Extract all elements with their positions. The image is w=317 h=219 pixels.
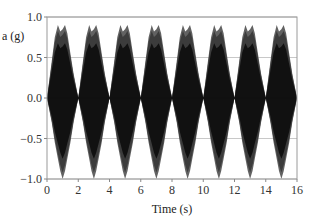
x-tick-label: 6: [138, 183, 144, 197]
x-tick-label: 0: [44, 183, 50, 197]
x-axis-label: Time (s): [152, 202, 193, 216]
y-axis-label: a (g): [2, 29, 24, 43]
signal-lobe: [110, 43, 141, 159]
y-tick-label: −1.0: [20, 172, 42, 186]
x-tick-label: 16: [291, 183, 303, 197]
y-tick-label: 0.0: [27, 91, 42, 105]
signal-lobe: [235, 43, 266, 159]
x-axis-ticks: 0246810121416: [44, 179, 303, 197]
signal-lobe: [78, 43, 109, 159]
signal-envelope: [47, 25, 297, 179]
signal-lobe: [141, 43, 172, 159]
y-tick-label: −0.5: [20, 132, 42, 146]
x-tick-label: 2: [75, 183, 81, 197]
signal-lobe: [203, 43, 234, 159]
signal-lobe: [47, 43, 78, 159]
x-tick-label: 8: [169, 183, 175, 197]
signal-lobe: [172, 43, 203, 159]
x-tick-label: 4: [107, 183, 113, 197]
x-tick-label: 10: [197, 183, 209, 197]
acceleration-chart: 0246810121416 1.00.50.0−0.5−1.0 Time (s)…: [0, 0, 317, 219]
signal-lobe: [266, 43, 297, 159]
y-tick-label: 1.0: [27, 10, 42, 24]
x-tick-label: 14: [260, 183, 272, 197]
x-tick-label: 12: [229, 183, 241, 197]
y-tick-label: 0.5: [27, 51, 42, 65]
